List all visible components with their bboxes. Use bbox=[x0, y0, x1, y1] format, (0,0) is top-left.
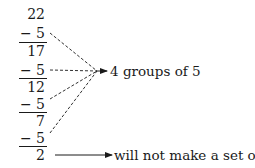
dashed-arrow bbox=[50, 70, 97, 71]
groups-label: 4 groups of 5 bbox=[110, 64, 201, 78]
dashed-arrow bbox=[50, 33, 97, 71]
dashed-arrow bbox=[50, 71, 97, 133]
arrows bbox=[0, 0, 255, 168]
remainder-label: will not make a set of 5 bbox=[114, 148, 255, 162]
dashed-arrow bbox=[50, 71, 97, 99]
